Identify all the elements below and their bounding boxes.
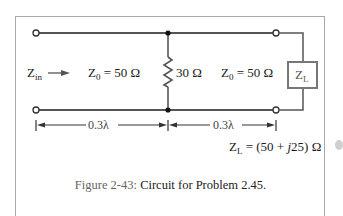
dim1-arrow-right-icon bbox=[159, 123, 167, 128]
zin-label: Zin bbox=[27, 66, 42, 82]
terminal-input-bottom bbox=[33, 107, 39, 113]
junction-bottom bbox=[165, 107, 170, 112]
terminal-input-top bbox=[33, 30, 39, 36]
line2-impedance-label: Z0 = 50 Ω bbox=[221, 66, 273, 82]
dim2-arrow-left-icon bbox=[169, 123, 177, 128]
resistor-value-label: 30 Ω bbox=[176, 66, 202, 79]
terminal-load-top bbox=[273, 30, 279, 36]
resistor-zigzag bbox=[164, 57, 172, 87]
terminal-load-bottom bbox=[273, 107, 279, 113]
line1-impedance-label: Z0 = 50 Ω bbox=[88, 66, 140, 82]
caption-label: Figure 2-43: bbox=[75, 178, 137, 192]
dim1-arrow-left-icon bbox=[37, 123, 45, 128]
line1-length-label: 0.3λ bbox=[88, 119, 109, 131]
load-wire-bottom bbox=[279, 88, 303, 110]
load-impedance-value: ZL = (50 + j25) Ω bbox=[229, 140, 321, 156]
load-wire-top bbox=[279, 33, 303, 62]
zin-arrow-icon bbox=[61, 70, 70, 76]
line2-length-label: 0.3λ bbox=[213, 119, 234, 131]
junction-top bbox=[165, 30, 170, 35]
load-box-label: ZL bbox=[295, 68, 308, 84]
edge-artifact bbox=[335, 140, 343, 150]
figure-caption: Figure 2-43: Circuit for Problem 2.45. bbox=[0, 178, 341, 193]
caption-text: Circuit for Problem 2.45. bbox=[137, 178, 266, 192]
dim2-arrow-right-icon bbox=[267, 123, 275, 128]
